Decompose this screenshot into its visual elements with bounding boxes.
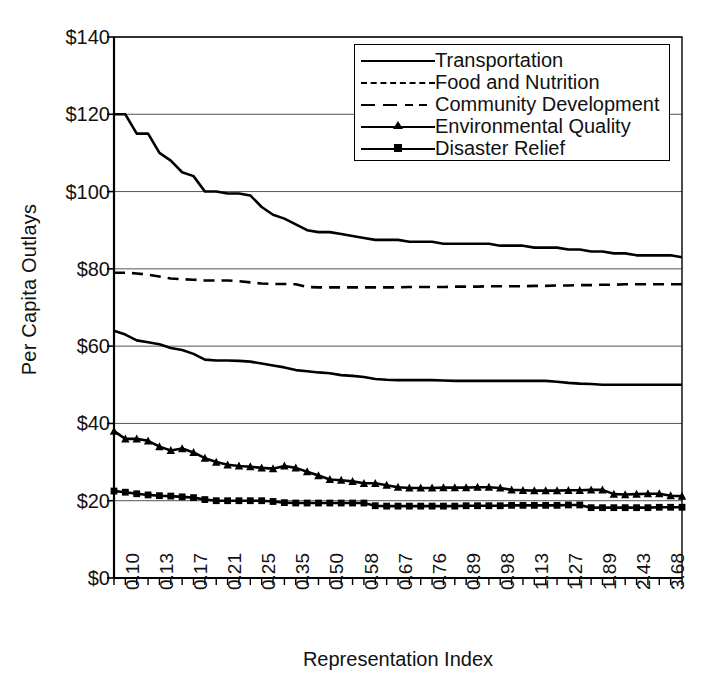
legend-label: Community Development [435, 94, 660, 114]
data-point-marker-square [361, 500, 368, 507]
data-point-marker-square [610, 504, 617, 511]
data-point-marker-square [372, 502, 379, 509]
chart-figure: Per Capita Outlays $0$20$40$60$80$100$12… [0, 0, 706, 684]
data-point-marker-square [133, 490, 140, 497]
x-axis-tick-label: 2.43 [633, 553, 655, 590]
legend-item-community-development: Community Development [355, 93, 669, 115]
x-axis-tick-label: 0.21 [224, 553, 246, 590]
data-point-marker-square [111, 488, 118, 495]
data-point-marker-square [315, 500, 322, 507]
chart-legend: Transportation Food and Nutrition Commun… [354, 44, 670, 161]
data-point-marker-square [270, 498, 277, 505]
data-point-marker-square [554, 502, 561, 509]
data-point-marker-square [349, 500, 356, 507]
data-point-marker-square [201, 496, 208, 503]
legend-label: Food and Nutrition [435, 72, 600, 92]
x-axis-tick-label: 0.25 [258, 553, 280, 590]
data-point-marker-square [679, 504, 686, 511]
data-point-marker-square [417, 503, 424, 510]
data-point-marker-square [167, 493, 174, 500]
data-point-marker-square [338, 500, 345, 507]
data-point-marker-triangle [110, 427, 118, 435]
data-point-marker-square [440, 503, 447, 510]
legend-label: Transportation [435, 50, 563, 70]
data-point-marker-square [429, 503, 436, 510]
legend-item-disaster-relief: Disaster Relief [355, 137, 669, 159]
data-point-marker-square [599, 504, 606, 511]
data-point-marker-square [576, 502, 583, 509]
data-point-marker-square [236, 497, 243, 504]
x-axis-tick-label: 0.67 [395, 553, 417, 590]
legend-key-triangle-marker-icon [361, 116, 435, 136]
data-point-marker-square [247, 497, 254, 504]
data-point-marker-square [542, 502, 549, 509]
x-axis-tick-label: 0.13 [156, 553, 178, 590]
data-point-marker-square [156, 492, 163, 499]
data-point-marker-square [565, 502, 572, 509]
x-axis-tick-label: 0.50 [326, 553, 348, 590]
data-point-marker-square [179, 493, 186, 500]
legend-label: Environmental Quality [435, 116, 631, 136]
x-axis-tick-label: 0.35 [292, 553, 314, 590]
x-axis-tick-label: 0.17 [190, 553, 212, 590]
data-point-marker-square [588, 504, 595, 511]
data-point-marker-square [224, 497, 231, 504]
data-point-marker-square [190, 494, 197, 501]
series-line-food-and-nutrition [114, 273, 682, 288]
data-point-marker-square [497, 502, 504, 509]
legend-key-square-marker-icon [361, 138, 435, 158]
series-line-community-development [114, 331, 682, 385]
data-point-marker-square [485, 502, 492, 509]
data-point-marker-square [122, 489, 129, 496]
legend-item-transportation: Transportation [355, 49, 669, 71]
data-point-marker-square [508, 502, 515, 509]
data-point-marker-square [304, 500, 311, 507]
x-axis-tick-label: 0.98 [497, 553, 519, 590]
data-point-marker-square [633, 504, 640, 511]
legend-key-dashed-line-icon [361, 72, 435, 92]
data-point-marker-square [474, 502, 481, 509]
x-axis-tick-label: 1.27 [565, 553, 587, 590]
legend-key-solid-line-icon [361, 50, 435, 70]
data-point-marker-square [145, 492, 152, 499]
data-point-marker-square [281, 499, 288, 506]
legend-key-dash-dot-line-icon [361, 94, 435, 114]
data-point-marker-square [667, 504, 674, 511]
data-point-marker-square [463, 502, 470, 509]
legend-item-environmental-quality: Environmental Quality [355, 115, 669, 137]
data-point-marker-square [395, 503, 402, 510]
data-point-marker-square [451, 503, 458, 510]
data-point-marker-square [656, 504, 663, 511]
legend-label: Disaster Relief [435, 138, 565, 158]
x-axis-tick-label: 3.68 [667, 553, 689, 590]
x-axis-tick-label: 0.10 [122, 553, 144, 590]
data-point-marker-square [292, 500, 299, 507]
data-point-marker-square [383, 503, 390, 510]
x-axis-tick-label: 1.89 [599, 553, 621, 590]
legend-item-food-and-nutrition: Food and Nutrition [355, 71, 669, 93]
data-point-marker-square [520, 502, 527, 509]
data-point-marker-square [213, 497, 220, 504]
x-axis-tick-label: 0.76 [429, 553, 451, 590]
data-point-marker-square [622, 504, 629, 511]
data-point-marker-square [258, 497, 265, 504]
x-axis-tick-label: 0.58 [361, 553, 383, 590]
x-axis-tick-label: 0.89 [463, 553, 485, 590]
x-axis-title: Representation Index [114, 648, 682, 671]
data-point-marker-square [406, 503, 413, 510]
data-point-marker-square [645, 504, 652, 511]
data-point-marker-square [531, 502, 538, 509]
x-axis-tick-label: 1.13 [531, 553, 553, 590]
data-point-marker-square [326, 500, 333, 507]
